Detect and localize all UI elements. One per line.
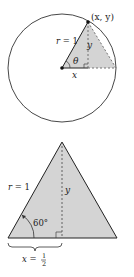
point-label: (x, y) bbox=[91, 12, 114, 22]
x-value-label: x = bbox=[22, 254, 37, 264]
diagram-canvas: (x, y) r = 1 y θ x r = 1 y 60° x = 1 2 bbox=[0, 0, 134, 277]
point-dot bbox=[86, 20, 90, 24]
fraction-numerator: 1 bbox=[42, 252, 46, 260]
y-label: y bbox=[86, 40, 93, 50]
y-label: y bbox=[64, 185, 71, 195]
radius-label: r = 1 bbox=[56, 36, 78, 46]
center-dot bbox=[60, 66, 64, 70]
triangle-figure: r = 1 y 60° x = 1 2 bbox=[8, 142, 117, 268]
theta-label: θ bbox=[73, 56, 79, 66]
x-label: x bbox=[72, 70, 77, 80]
fraction-denominator: 2 bbox=[42, 260, 46, 268]
angle-label: 60° bbox=[33, 218, 48, 228]
unit-circle-figure: (x, y) r = 1 y θ x bbox=[8, 12, 116, 122]
x-brace bbox=[8, 243, 62, 251]
radius-label: r = 1 bbox=[8, 182, 30, 192]
